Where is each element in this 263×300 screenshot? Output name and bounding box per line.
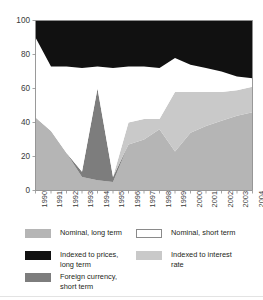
y-axis-tick-label: 20: [21, 152, 31, 161]
x-axis-label: 1998: [163, 191, 175, 229]
x-axis-label: 1995: [116, 191, 128, 229]
clipped-header: Per cent: [0, 0, 263, 9]
y-axis-tick-label: 100: [16, 16, 30, 25]
y-axis-tick-label: 40: [21, 118, 31, 127]
y-axis-tick-label: 60: [21, 84, 31, 93]
x-axis-label: 1993: [85, 191, 97, 229]
legend-swatch: [25, 273, 51, 282]
legend-swatch: [136, 251, 162, 260]
legend-swatch: [136, 229, 162, 238]
x-axis-label: 1992: [70, 191, 82, 229]
x-axis-label: 1999: [178, 191, 190, 229]
plot-area: 020406080100: [0, 9, 263, 197]
legend-label: Indexed to prices, long term: [60, 250, 118, 269]
chart-page: Per cent 020406080100 199019911992199319…: [0, 0, 263, 300]
clipped-header-text: Per cent: [6, 0, 37, 2]
x-axis-label: 1990: [39, 191, 51, 229]
x-axis-label: 1997: [147, 191, 159, 229]
x-axis-labels: 1990199119921993199419951996199719981999…: [0, 191, 263, 229]
chart-legend: Nominal, long termNominal, short termInd…: [0, 228, 263, 292]
legend-label: Indexed to interest rate: [171, 250, 232, 269]
stacked-area-chart: 020406080100: [0, 9, 263, 197]
x-axis-label: 1991: [54, 191, 66, 229]
x-axis-label: 2000: [194, 191, 206, 229]
legend-item[interactable]: Nominal, long term: [25, 228, 133, 238]
legend-label: Nominal, short term: [171, 228, 235, 238]
legend-swatch: [25, 251, 51, 260]
legend-item[interactable]: Indexed to prices, long term: [25, 250, 133, 269]
x-axis-label: 2002: [225, 191, 237, 229]
legend-label: Foreign currency, short term: [60, 272, 117, 291]
y-axis-tick-label: 80: [21, 50, 31, 59]
x-axis-label: 2003: [240, 191, 252, 229]
x-axis-label: 1996: [132, 191, 144, 229]
x-axis-label: 2001: [209, 191, 221, 229]
legend-item[interactable]: Indexed to interest rate: [136, 250, 256, 269]
x-axis-label: 1994: [101, 191, 113, 229]
bottom-divider: [0, 296, 263, 297]
legend-item[interactable]: Nominal, short term: [136, 228, 256, 238]
x-axis-label: 2004: [256, 191, 263, 229]
legend-swatch: [25, 229, 51, 238]
legend-label: Nominal, long term: [60, 228, 122, 238]
legend-item[interactable]: Foreign currency, short term: [25, 272, 133, 291]
